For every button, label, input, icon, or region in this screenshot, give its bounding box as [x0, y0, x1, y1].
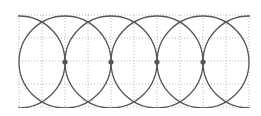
- center-point: [200, 59, 205, 64]
- circle: [203, 16, 261, 108]
- center-point: [62, 59, 67, 64]
- circle-group: [0, 16, 261, 108]
- center-point: [108, 59, 113, 64]
- center-point: [154, 59, 159, 64]
- overlapping-circles-diagram: [0, 0, 261, 116]
